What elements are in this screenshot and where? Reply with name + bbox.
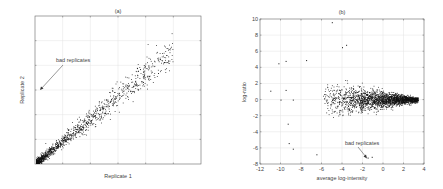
xtick-label: 4 xyxy=(422,166,425,172)
xtick-label: -8 xyxy=(299,166,304,172)
panel-b-annotation: bad replicates xyxy=(345,140,379,146)
arrow-head-icon xyxy=(364,155,368,159)
xtick-label: -4 xyxy=(340,166,345,172)
panel-a-grid xyxy=(35,16,201,164)
ytick-label: -8 xyxy=(253,161,258,167)
xtick-label: -6 xyxy=(319,166,324,172)
panel-b-ylabel: log-ratio xyxy=(241,82,247,102)
xtick-label: 2 xyxy=(402,166,405,172)
xtick-label: -2 xyxy=(360,166,365,172)
ytick-label: 2 xyxy=(255,80,258,86)
panel-a-ylabel: Replicate 2 xyxy=(19,76,25,104)
panel-a-xlabel: Replicate 1 xyxy=(104,173,132,179)
figure: (a) Replicate 1 Replicate 2 bad replicat… xyxy=(0,0,443,189)
panel-b-grid xyxy=(260,19,424,164)
ytick-label: 4 xyxy=(255,64,258,70)
panel-a-points xyxy=(36,33,173,164)
ytick-label: 8 xyxy=(255,32,258,38)
ytick-label: 6 xyxy=(255,48,258,54)
xtick-label: -10 xyxy=(277,166,285,172)
ytick-label: -6 xyxy=(253,145,258,151)
xtick-label: 0 xyxy=(381,166,384,172)
panel-a-annotation-arrow xyxy=(41,65,63,89)
panel-a: (a) Replicate 1 Replicate 2 bad replicat… xyxy=(19,8,201,179)
panel-b-xlabel: average log-intensity xyxy=(317,175,368,181)
panel-b-ytick-labels: -8-6-4-20246810 xyxy=(252,16,258,167)
panel-b: -12-10-8-6-4-2024 -8-6-4-20246810 (b) av… xyxy=(241,9,426,181)
panel-b-points xyxy=(270,22,418,158)
ytick-label: -4 xyxy=(253,129,258,135)
ytick-label: -2 xyxy=(253,113,258,119)
panel-b-title: (b) xyxy=(339,9,346,15)
panel-a-title: (a) xyxy=(115,8,122,14)
ytick-label: 10 xyxy=(252,16,258,22)
ytick-label: 0 xyxy=(255,97,258,103)
panel-a-annotation: bad replicates xyxy=(56,57,90,63)
panel-b-xtick-labels: -12-10-8-6-4-2024 xyxy=(256,166,426,172)
